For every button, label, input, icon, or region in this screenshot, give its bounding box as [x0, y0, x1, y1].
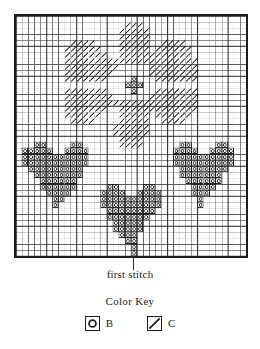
color-key-label-c: C: [168, 318, 175, 329]
pattern-grid: [16, 16, 246, 256]
color-key-entry-c: C: [147, 316, 175, 331]
color-key-legend: B C: [0, 316, 260, 331]
color-key-label-b: B: [106, 318, 113, 329]
color-key-title: Color Key: [0, 295, 260, 307]
cross-stitch-chart: [14, 14, 248, 258]
first-stitch-label: first stitch: [0, 268, 260, 280]
color-key-entry-b: B: [85, 316, 113, 331]
circle-in-square-icon: [85, 316, 100, 331]
diagonal-slash-icon: [147, 316, 162, 331]
